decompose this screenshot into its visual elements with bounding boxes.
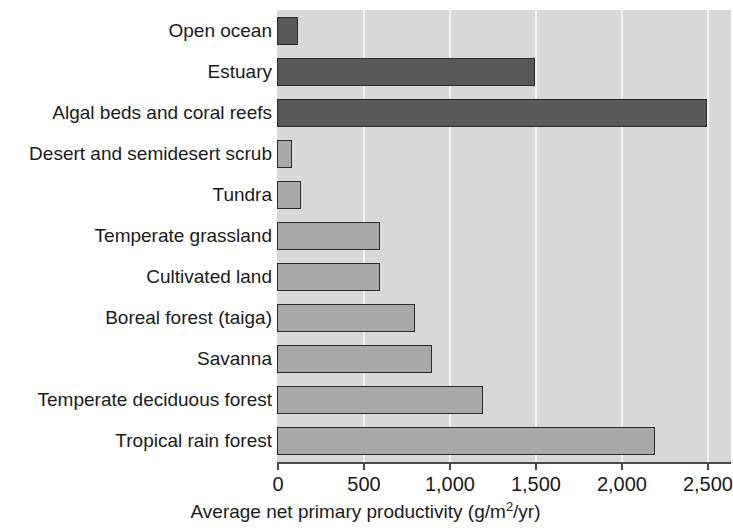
bar: [277, 304, 415, 332]
category-label: Algal beds and coral reefs: [5, 102, 277, 124]
category-axis-labels: Open oceanEstuaryAlgal beds and coral re…: [0, 10, 277, 462]
x-tick-mark: [363, 462, 365, 470]
category-label: Tropical rain forest: [5, 430, 277, 452]
x-axis-title-superscript: 2: [506, 499, 513, 514]
x-tick-label: 1,000: [425, 472, 475, 496]
category-label: Savanna: [5, 348, 277, 370]
category-label: Estuary: [5, 61, 277, 83]
bar: [277, 427, 655, 455]
category-label: Boreal forest (taiga): [5, 307, 277, 329]
x-axis-line: [277, 462, 731, 464]
x-tick-mark: [621, 462, 623, 470]
bar: [277, 99, 707, 127]
category-label: Temperate deciduous forest: [5, 389, 277, 411]
gridline-2500: [707, 10, 709, 462]
x-tick-mark: [449, 462, 451, 470]
x-tick-label: 2,000: [597, 472, 647, 496]
bar: [277, 58, 535, 86]
category-label: Desert and semidesert scrub: [5, 143, 277, 165]
category-label: Open ocean: [5, 20, 277, 42]
x-tick-label: 0: [272, 472, 283, 496]
bar: [277, 140, 292, 168]
gridline-2000: [621, 10, 623, 462]
gridline-1500: [535, 10, 537, 462]
x-tick-label: 2,500: [683, 472, 733, 496]
x-tick-mark: [535, 462, 537, 470]
x-tick-label: 1,500: [511, 472, 561, 496]
x-tick-mark: [277, 462, 279, 470]
bar: [277, 181, 301, 209]
plot-area: [277, 10, 731, 462]
category-label: Tundra: [5, 184, 277, 206]
bar: [277, 222, 380, 250]
bar: [277, 386, 483, 414]
category-label: Temperate grassland: [5, 225, 277, 247]
x-tick-label: 500: [347, 472, 380, 496]
x-tick-mark: [707, 462, 709, 470]
x-axis-title: Average net primary productivity (g/m2/y…: [0, 500, 731, 524]
bar: [277, 345, 432, 373]
bar: [277, 17, 298, 45]
category-label: Cultivated land: [5, 266, 277, 288]
bar: [277, 263, 380, 291]
